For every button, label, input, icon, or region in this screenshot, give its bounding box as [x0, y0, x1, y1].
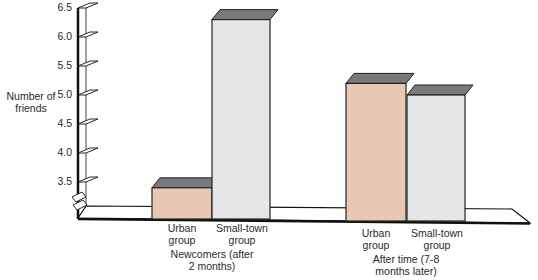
category-label-line: 2 months)	[142, 260, 282, 272]
bar-top-face	[407, 85, 473, 95]
bar-chart: Number of friends 3.54.04.55.05.56.06.5U…	[0, 0, 538, 280]
bar-small-town	[212, 20, 270, 219]
category-label: Newcomers (after2 months)	[142, 248, 282, 272]
bar-small-town	[407, 95, 465, 221]
y-tick-label: 3.5	[42, 175, 72, 187]
series-label: Small-towngroup	[202, 222, 282, 246]
series-label: Small-towngroup	[397, 227, 477, 251]
y-tick-label: 6.0	[42, 30, 72, 42]
y-tick-label: 5.0	[42, 88, 72, 100]
series-label-line: group	[397, 239, 477, 251]
bar-top-face	[152, 178, 220, 188]
category-label: After time (7-8months later)	[336, 253, 476, 277]
y-tick-label: 5.5	[42, 59, 72, 71]
bar-urban	[152, 188, 212, 219]
category-label-line: months later)	[336, 265, 476, 277]
y-tick-shelf	[78, 119, 98, 124]
y-tick-shelf	[78, 90, 98, 95]
y-tick-shelf	[78, 148, 98, 153]
bar-urban	[346, 83, 406, 221]
series-label-line: group	[202, 234, 282, 246]
category-label-line: Newcomers (after	[142, 248, 282, 260]
y-tick-shelf	[78, 177, 98, 182]
y-tick-label: 4.0	[42, 146, 72, 158]
bar-top-face	[346, 73, 414, 83]
series-label-line: Small-town	[397, 227, 477, 239]
series-label-line: Small-town	[202, 222, 282, 234]
category-label-line: After time (7-8	[336, 253, 476, 265]
y-tick-label: 6.5	[42, 1, 72, 13]
y-tick-shelf	[78, 61, 98, 66]
y-tick-label: 4.5	[42, 117, 72, 129]
y-tick-shelf	[78, 3, 98, 8]
bar-top-face	[212, 10, 278, 20]
y-tick-shelf	[78, 32, 98, 37]
